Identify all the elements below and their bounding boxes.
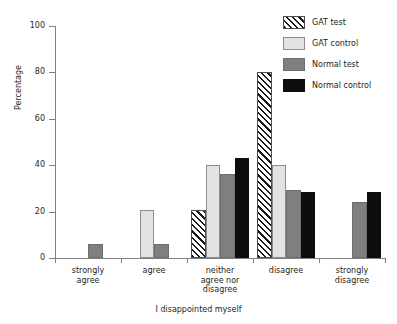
bar: [235, 158, 250, 258]
bar: [257, 72, 272, 258]
legend-swatch: [283, 37, 305, 50]
category-label-line: agree: [55, 276, 121, 286]
category-label-line: neither: [187, 266, 253, 276]
bar: [191, 210, 206, 258]
x-axis-tick: [385, 258, 386, 263]
bar: [286, 190, 301, 258]
category-label-line: disagree: [319, 276, 385, 286]
y-axis-tick-label: 100: [30, 22, 45, 30]
legend-swatch: [283, 16, 305, 29]
bar: [220, 174, 235, 258]
category-label-line: agree: [121, 266, 187, 276]
y-axis-tick-label: 40: [35, 161, 45, 169]
legend-swatch: [283, 79, 305, 92]
category-label-line: disagree: [187, 285, 253, 295]
bar: [140, 210, 155, 258]
bar: [272, 165, 287, 258]
y-axis-title: Percentage: [14, 65, 23, 110]
x-axis-title: I disappointed myself: [0, 305, 397, 314]
legend-label: Normal test: [312, 60, 359, 69]
x-axis-line: [55, 258, 386, 259]
x-axis-category-label: disagree: [253, 266, 319, 276]
legend-label: Normal control: [312, 81, 371, 90]
x-axis-tick: [121, 258, 122, 263]
y-axis-tick-label: 0: [40, 254, 45, 262]
bar-chart: Percentage I disappointed myself 0204060…: [0, 0, 397, 324]
x-axis-category-label: stronglydisagree: [319, 266, 385, 285]
y-axis-tick-label: 20: [35, 208, 45, 216]
y-axis-tick-label: 60: [35, 115, 45, 123]
bar: [88, 244, 103, 258]
category-label-line: disagree: [253, 266, 319, 276]
x-axis-category-label: stronglyagree: [55, 266, 121, 285]
x-axis-tick: [187, 258, 188, 263]
x-axis-category-label: agree: [121, 266, 187, 276]
bar: [352, 202, 367, 258]
bar: [367, 192, 382, 258]
x-axis-tick: [253, 258, 254, 263]
x-axis-tick: [55, 258, 56, 263]
category-label-line: strongly: [55, 266, 121, 276]
bar: [206, 165, 221, 258]
legend-label: GAT control: [312, 39, 358, 48]
x-axis-category-label: neitheragree nordisagree: [187, 266, 253, 295]
x-axis-tick: [319, 258, 320, 263]
category-label-line: agree nor: [187, 276, 253, 286]
bar: [301, 192, 316, 258]
bar: [154, 244, 169, 258]
y-axis-tick-label: 80: [35, 68, 45, 76]
legend-label: GAT test: [312, 18, 346, 27]
legend-swatch: [283, 58, 305, 71]
category-label-line: strongly: [319, 266, 385, 276]
